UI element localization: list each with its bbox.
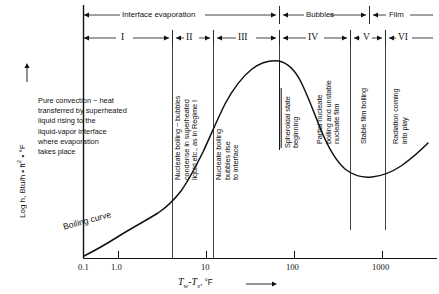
band-label-film: Film (389, 10, 404, 19)
y-axis-label-exponent: 2 (16, 160, 22, 163)
x-axis-label-minus-ts: -T (188, 276, 197, 287)
regime-note-V: Stable film boiling (360, 62, 369, 144)
x-tick-label-1: 1.0 (111, 262, 122, 272)
band-label-interface-evaporation: Interface evaporation (122, 10, 195, 19)
y-axis-label: Log h, Btu/h • ft2 • °F (16, 78, 27, 218)
y-axis-label-text: Log h, Btu/h • ft (18, 163, 27, 218)
x-tick-label-2: 10 (201, 262, 210, 272)
band-label-bubbles: Bubbles (306, 10, 334, 19)
figure-container: Interface evaporation Bubbles Film I II … (0, 0, 439, 294)
regime-numeral-III: III (238, 32, 248, 42)
spheroidal-state-annotation: Spheroidal state beginning (281, 88, 301, 148)
x-axis-ticks (119, 251, 383, 259)
x-axis-arrow (246, 278, 278, 290)
y-axis-arrow (20, 62, 34, 82)
regime-numeral-I: I (121, 32, 124, 42)
regime-note-IV: Partial nucleate boiling and unstable nu… (316, 62, 342, 144)
x-tick-label-3: 100 (286, 262, 299, 272)
y-axis-label-tail: • °F (18, 144, 27, 159)
x-tick-label-0: 0.1 (78, 262, 89, 272)
regime-numeral-VI: VI (398, 32, 408, 42)
regime-numeral-IV: IV (308, 32, 318, 42)
regime-note-I: Pure convection ~ heat transferred by su… (38, 96, 168, 157)
regime-numeral-V: V (363, 32, 370, 42)
regime-note-III: Nucleate boiling bubbles rise to interfa… (215, 62, 241, 180)
regime-arrow-VI (389, 35, 433, 40)
regime-arrow-I (84, 35, 169, 40)
boiling-curve-line (84, 61, 428, 256)
regime-note-VI: Radiation coming into play (392, 62, 409, 144)
x-axis-label: Tw-Ts, °F (178, 276, 213, 290)
regime-arrow-II (176, 35, 210, 40)
x-tick-label-4: 1000 (372, 262, 389, 272)
x-axis-label-unit: , °F (200, 278, 213, 287)
regime-numeral-II: II (186, 32, 192, 42)
regime-note-II: Nucleate boiling ~ bubbles condense in s… (174, 62, 200, 180)
